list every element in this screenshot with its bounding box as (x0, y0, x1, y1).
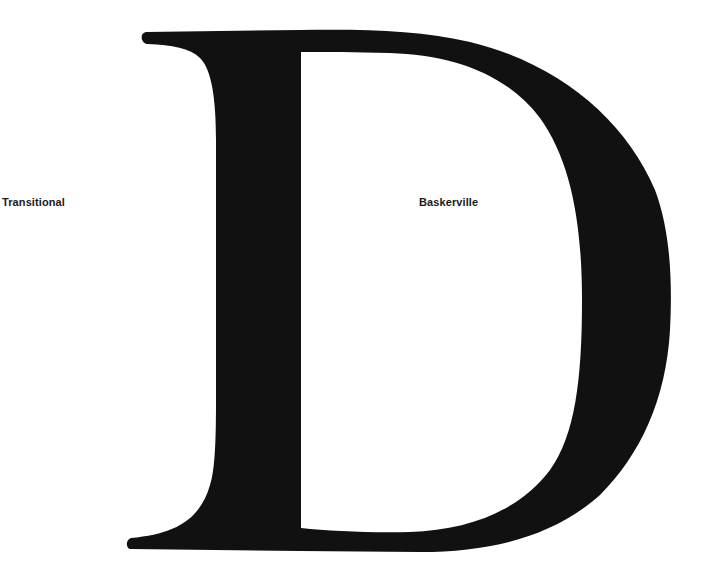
letter-d-shape (127, 30, 671, 552)
typeface-name-label: Baskerville (419, 196, 478, 208)
letter-d-glyph (0, 0, 707, 569)
classification-label: Transitional (2, 196, 65, 208)
